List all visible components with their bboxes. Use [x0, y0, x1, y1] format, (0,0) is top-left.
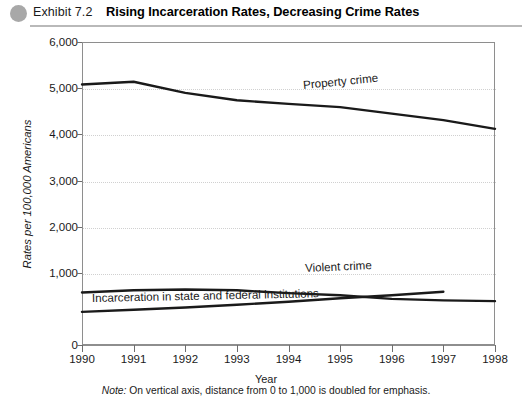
- x-tick-mark: [185, 345, 186, 352]
- series-line-1: [82, 82, 495, 129]
- chart-footnote: Note: On vertical axis, distance from 0 …: [0, 385, 532, 396]
- y-tick-label: 4,000: [6, 128, 78, 140]
- x-tick-mark: [289, 345, 290, 352]
- y-tick-label: 2,000: [6, 221, 78, 233]
- x-tick-mark: [392, 345, 393, 352]
- y-tick-mark: [77, 42, 82, 43]
- x-axis-title: Year: [0, 373, 532, 385]
- exhibit-title: Rising Incarceration Rates, Decreasing C…: [106, 4, 419, 19]
- exhibit-header: Exhibit 7.2 Rising Incarceration Rates, …: [0, 0, 532, 28]
- x-tick-mark: [443, 345, 444, 352]
- x-tick-mark: [340, 345, 341, 352]
- x-tick-mark: [134, 345, 135, 352]
- y-tick-mark: [77, 227, 82, 228]
- y-tick-label: 1,000: [6, 267, 78, 279]
- y-tick-label: 5,000: [6, 82, 78, 94]
- y-tick-label: 6,000: [6, 36, 78, 48]
- header-divider: [30, 25, 522, 27]
- y-tick-label: 0: [6, 339, 78, 351]
- x-tick-mark: [237, 345, 238, 352]
- x-tick-mark: [495, 345, 496, 352]
- y-tick-mark: [77, 181, 82, 182]
- footnote-text: On vertical axis, distance from 0 to 1,0…: [126, 385, 430, 396]
- y-tick-mark: [77, 273, 82, 274]
- y-tick-mark: [77, 134, 82, 135]
- y-tick-mark: [77, 88, 82, 89]
- x-tick-label: 1998: [465, 353, 525, 365]
- x-tick-mark: [82, 345, 83, 352]
- footnote-lead: Note:: [102, 385, 127, 396]
- y-tick-label: 3,000: [6, 175, 78, 187]
- y-axis: Rates per 100,000 Americans 01,0002,0003…: [0, 0, 78, 403]
